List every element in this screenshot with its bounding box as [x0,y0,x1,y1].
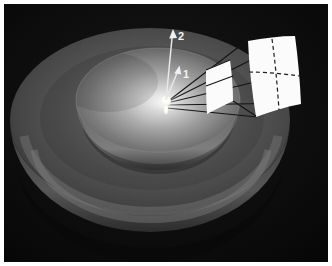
illustration-canvas: 2 1 [0,0,332,266]
grain-overlay [4,4,328,262]
figure-root: 2 1 [0,0,332,266]
